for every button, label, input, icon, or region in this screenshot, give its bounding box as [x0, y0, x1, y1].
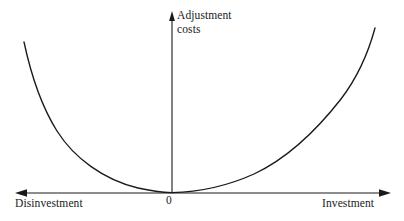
- x-axis-label-left: Disinvestment: [15, 197, 83, 211]
- origin-label: 0: [166, 194, 172, 208]
- y-axis-label-line2: costs: [177, 23, 232, 37]
- adjustment-costs-figure: Adjustmentcosts 0 Disinvestment Investme…: [0, 0, 404, 221]
- y-axis-label-line1: Adjustment: [177, 9, 232, 21]
- arrow-left-icon: [15, 189, 27, 196]
- x-axis-label-right: Investment: [322, 197, 374, 211]
- adjustment-cost-curve: [24, 28, 375, 193]
- y-axis-label: Adjustmentcosts: [177, 9, 232, 36]
- arrow-up-icon: [169, 11, 175, 21]
- arrow-right-icon: [379, 189, 391, 196]
